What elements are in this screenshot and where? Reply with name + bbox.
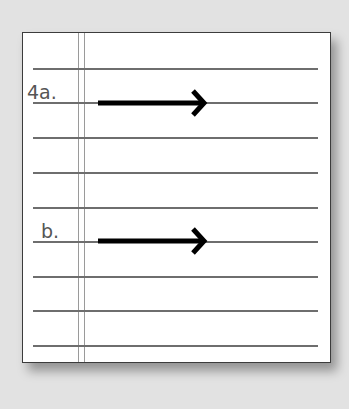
- ruled-line: [33, 137, 318, 139]
- ruled-line: [33, 310, 318, 312]
- lined-paper: 4a. b.: [22, 32, 331, 363]
- ruled-line: [33, 172, 318, 174]
- ruled-line: [33, 345, 318, 347]
- margin-line-left: [78, 33, 79, 362]
- item-label-4a: 4a.: [27, 83, 57, 102]
- ruled-line: [33, 68, 318, 70]
- item-label-b: b.: [41, 222, 59, 241]
- ruled-line: [33, 207, 318, 209]
- right-arrow-icon: [97, 88, 209, 118]
- ruled-line: [33, 276, 318, 278]
- right-arrow-icon: [97, 226, 209, 256]
- margin-line-right: [84, 33, 85, 362]
